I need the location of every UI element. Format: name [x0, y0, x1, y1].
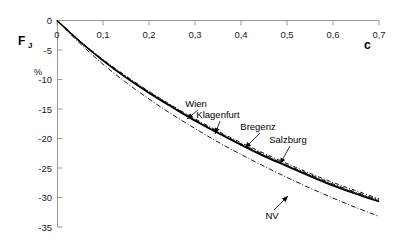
- chart-canvas: 00,10,20,30,40,50,60,7 0-5-10-15-20-25-3…: [0, 0, 405, 241]
- x-tick-label: 0,3: [188, 29, 201, 40]
- x-tick-label: 0,7: [372, 29, 385, 40]
- y-tick-label: -5: [44, 45, 52, 56]
- y-axis-title-subscript: J: [28, 41, 32, 50]
- x-tick-label: 0,6: [326, 29, 339, 40]
- annotation-arrowhead: [280, 157, 285, 164]
- y-tick-label: -35: [38, 222, 52, 233]
- annotation-label: Bregenz: [240, 121, 276, 132]
- annotation-label: Salzburg: [269, 134, 307, 145]
- annotation-salzburg: Salzburg: [269, 134, 307, 164]
- y-tick-label: -30: [38, 192, 52, 203]
- annotation-klagenfurt: Klagenfurt: [196, 109, 240, 134]
- annotation-label: Wien: [185, 98, 207, 109]
- x-tick-label: 0,4: [234, 29, 247, 40]
- x-tick-label: 0,2: [142, 29, 155, 40]
- y-tick-label: 0: [47, 15, 52, 26]
- series-annotations: WienKlagenfurtBregenzSalzburgNV: [185, 98, 307, 221]
- annotation-label: Klagenfurt: [196, 109, 240, 120]
- y-axis-ticks: [58, 21, 63, 228]
- y-tick-label: -25: [38, 163, 52, 174]
- x-tick-label: 0: [54, 29, 59, 40]
- y-tick-label: -20: [38, 133, 52, 144]
- chart-figure: 00,10,20,30,40,50,60,7 0-5-10-15-20-25-3…: [0, 0, 405, 241]
- y-axis-unit-label: %: [34, 66, 43, 77]
- x-tick-label: 0,5: [280, 29, 293, 40]
- x-axis-ticks: [57, 21, 379, 26]
- y-axis-title: F: [18, 34, 25, 48]
- annotation-nv: NV: [265, 196, 288, 221]
- x-tick-label: 0,1: [96, 29, 109, 40]
- x-axis-tick-labels: 00,10,20,30,40,50,60,7: [54, 29, 385, 40]
- y-tick-label: -15: [38, 104, 52, 115]
- annotation-label: NV: [265, 210, 279, 221]
- y-axis-tick-labels: 0-5-10-15-20-25-30-35: [38, 15, 52, 233]
- axis-lines: [57, 20, 379, 227]
- x-axis-title: c: [364, 38, 371, 52]
